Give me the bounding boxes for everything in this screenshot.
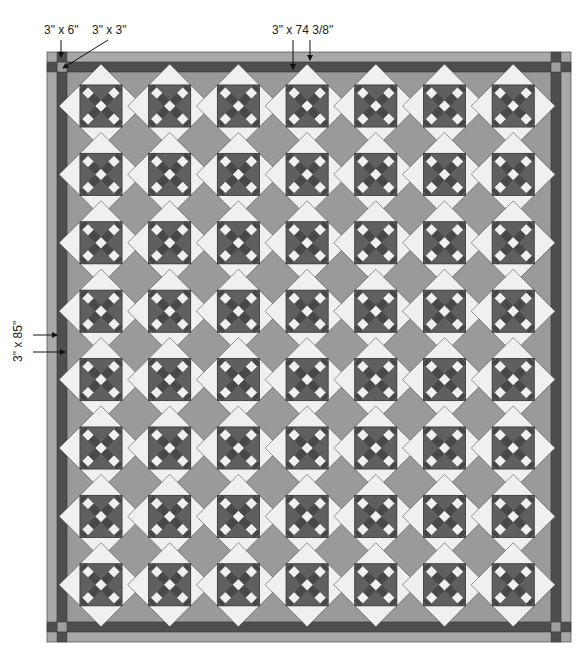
label-corner-square: 3" x 3" (92, 23, 127, 37)
label-top-border: 3" x 74 3/8" (272, 23, 333, 37)
quilt-diagram: 3" x 6" 3" x 3" 3" x 74 3/8" 3" x 85" (0, 0, 586, 661)
label-side-border: 3" x 85" (11, 321, 25, 362)
label-corner-strip: 3" x 6" (44, 23, 79, 37)
